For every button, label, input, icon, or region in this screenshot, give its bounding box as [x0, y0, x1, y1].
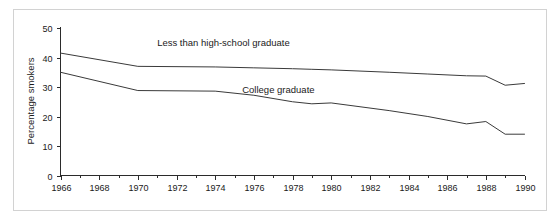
line-chart-plot: 01020304050 Percentage smokers 196619681… [0, 0, 560, 222]
series-label-0: Less than high-school graduate [157, 37, 290, 48]
x-tick-label-1970: 1970 [128, 183, 148, 193]
chart-figure: 01020304050 Percentage smokers 196619681… [0, 0, 560, 222]
y-axis: 01020304050 Percentage smokers [25, 24, 61, 182]
x-tick-label-1988: 1988 [476, 183, 496, 193]
x-tick-label-1986: 1986 [437, 183, 457, 193]
x-tick-label-1972: 1972 [167, 183, 187, 193]
x-tick-label-1982: 1982 [360, 183, 380, 193]
y-tick-label-10: 10 [42, 142, 52, 152]
x-tick-label-1968: 1968 [89, 183, 109, 193]
x-tick-label-1978: 1978 [283, 183, 303, 193]
y-tick-label-30: 30 [42, 83, 52, 93]
y-tick-label-0: 0 [47, 172, 52, 182]
x-tick-label-1984: 1984 [399, 183, 419, 193]
x-tick-label-1980: 1980 [321, 183, 341, 193]
x-tick-label-1990: 1990 [515, 183, 535, 193]
series-inline-labels: Less than high-school graduateCollege gr… [157, 37, 314, 95]
series-label-1: College graduate [242, 84, 314, 95]
x-tick-label-1976: 1976 [244, 183, 264, 193]
x-tick-label-1974: 1974 [205, 183, 225, 193]
x-axis-tick-labels: 1966196819701972197419761978198019821984… [51, 183, 535, 193]
x-axis: 1966196819701972197419761978198019821984… [51, 176, 535, 193]
y-axis-title: Percentage smokers [25, 57, 36, 144]
x-axis-major-ticks [62, 176, 526, 181]
x-tick-label-1966: 1966 [51, 183, 71, 193]
y-tick-label-40: 40 [42, 54, 52, 64]
y-axis-ticks [57, 29, 61, 177]
y-tick-label-50: 50 [42, 24, 52, 34]
series-line-1 [61, 72, 525, 134]
y-axis-tick-labels: 01020304050 [42, 24, 52, 182]
y-tick-label-20: 20 [42, 113, 52, 123]
series-line-0 [61, 53, 525, 85]
